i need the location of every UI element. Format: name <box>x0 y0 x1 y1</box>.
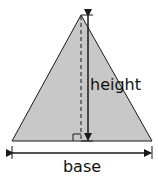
base-label: base <box>63 157 101 176</box>
height-label: height <box>90 75 141 94</box>
triangle-diagram: height base <box>0 0 158 181</box>
